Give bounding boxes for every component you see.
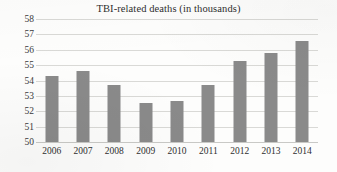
chart-title: TBI-related deaths (in thousands)	[0, 3, 337, 14]
y-tick-label: 52	[10, 106, 34, 116]
y-tick-label: 54	[10, 76, 34, 86]
bar-2010	[171, 101, 184, 143]
bar-2014	[296, 41, 309, 142]
y-tick-label: 53	[10, 91, 34, 101]
bar-chart-figure: TBI-related deaths (in thousands) 58 57 …	[0, 0, 337, 172]
bar-2007	[77, 71, 90, 142]
y-tick-label: 55	[10, 60, 34, 70]
gridline-50-baseline	[36, 142, 318, 143]
y-axis-labels: 58 57 56 55 54 53 52 51 50	[10, 19, 34, 142]
x-tick-label: 2014	[282, 146, 322, 156]
y-tick-label: 58	[10, 14, 34, 24]
y-tick-label: 56	[10, 45, 34, 55]
x-axis-labels: 2006 2007 2008 2009 2010 2011 2012 2013 …	[36, 146, 318, 162]
bar-2012	[233, 61, 246, 142]
bar-2009	[139, 103, 152, 142]
y-tick-label: 50	[10, 137, 34, 147]
y-tick-label: 51	[10, 122, 34, 132]
bar-series	[36, 19, 318, 142]
y-tick-label: 57	[10, 29, 34, 39]
bar-2013	[265, 53, 278, 142]
bar-2011	[202, 85, 215, 142]
bar-2008	[108, 85, 121, 142]
bar-2006	[45, 76, 58, 142]
